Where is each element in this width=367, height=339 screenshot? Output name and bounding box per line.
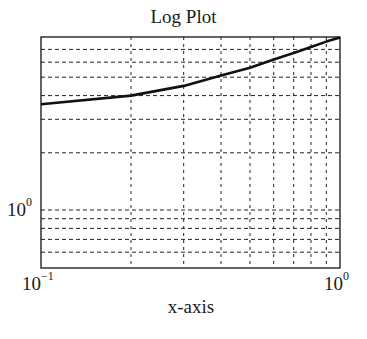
x-axis-label: x-axis [0,296,367,318]
x-tick-label-max: 100 [324,273,349,295]
plot-area [0,0,367,339]
x-tick-exponent: −1 [41,269,54,283]
data-line [41,37,340,104]
y-tick-base: 10 [7,199,26,220]
y-tick-label: 100 [7,199,32,221]
x-tick-exponent: 0 [343,269,349,283]
x-tick-base: 10 [324,273,343,294]
y-tick-exponent: 0 [26,195,32,209]
x-tick-label-min: 10−1 [22,273,54,295]
x-tick-base: 10 [22,273,41,294]
